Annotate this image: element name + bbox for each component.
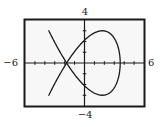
y-max-label: 4 (82, 6, 88, 17)
x-max-label: 6 (148, 57, 154, 68)
y-min-label: −4 (78, 109, 93, 120)
graph-window: −6 6 4 −4 (0, 0, 165, 127)
x-min-label: −6 (3, 57, 18, 68)
